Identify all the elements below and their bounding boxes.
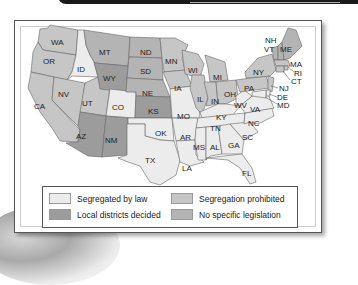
state-label-or: OR (43, 57, 55, 66)
legend-label: Segregation prohibited (199, 194, 285, 204)
state-label-nh: NH (265, 36, 277, 45)
state-label-ne: NE (142, 89, 153, 98)
state-ma (274, 60, 290, 66)
state-ct (276, 66, 284, 72)
state-label-mo: MO (177, 112, 190, 121)
state-label-fl: FL (242, 169, 252, 178)
state-ri (284, 66, 288, 70)
legend-label: Segregated by law (77, 194, 147, 204)
state-label-ks: KS (148, 107, 159, 116)
state-label-il: IL (197, 95, 204, 104)
state-label-id: ID (77, 65, 85, 74)
state-label-me: ME (280, 45, 292, 54)
legend-swatch (171, 193, 193, 204)
state-label-md: MD (277, 101, 290, 110)
state-label-mi: MI (213, 73, 222, 82)
state-label-ca: CA (34, 102, 46, 111)
state-label-la: LA (182, 164, 192, 173)
state-label-mn: MN (165, 57, 178, 66)
map-legend: Segregated by law Local districts decide… (42, 186, 298, 228)
state-label-vt: VT (264, 45, 274, 54)
state-label-sc: SC (242, 133, 253, 142)
legend-item-prohibited: Segregation prohibited (171, 193, 285, 204)
state-label-tn: TN (210, 124, 221, 133)
legend-label: No specific legislation (199, 210, 281, 220)
legend-swatch (171, 209, 193, 220)
state-label-ct: CT (291, 77, 302, 86)
state-label-ia: IA (174, 84, 182, 93)
state-label-ky: KY (216, 113, 227, 122)
state-label-ms: MS (193, 143, 205, 152)
state-label-ut: UT (82, 99, 93, 108)
state-label-nc: NC (248, 119, 260, 128)
state-label-nd: ND (140, 48, 152, 57)
state-label-va: VA (250, 105, 261, 114)
state-label-ma: MA (290, 60, 303, 69)
state-label-nv: NV (58, 90, 70, 99)
state-label-wv: WV (234, 101, 248, 110)
state-label-nj: NJ (279, 84, 289, 93)
legend-swatch (49, 209, 71, 220)
legend-label: Local districts decided (77, 210, 161, 220)
state-label-ga: GA (228, 141, 240, 150)
state-label-wy: WY (103, 74, 117, 83)
state-label-al: AL (210, 143, 220, 152)
state-label-wi: WI (188, 66, 198, 75)
state-label-ok: OK (155, 129, 167, 138)
state-label-nm: NM (105, 136, 118, 145)
state-label-sd: SD (140, 67, 151, 76)
legend-swatch (49, 193, 71, 204)
state-label-mt: MT (99, 48, 111, 57)
state-nj (268, 76, 274, 92)
legend-item-segregated: Segregated by law (49, 193, 147, 204)
state-de (266, 90, 270, 96)
state-label-oh: OH (224, 90, 236, 99)
state-label-wa: WA (51, 38, 64, 47)
legend-item-local: Local districts decided (49, 209, 161, 220)
state-label-co: CO (112, 103, 124, 112)
state-label-ar: AR (180, 133, 191, 142)
legend-item-none: No specific legislation (171, 209, 281, 220)
state-label-pa: PA (244, 84, 255, 93)
state-label-tx: TX (145, 156, 156, 165)
state-label-in: IN (211, 97, 219, 106)
state-label-az: AZ (76, 132, 86, 141)
state-me (282, 28, 302, 60)
state-label-ny: NY (253, 68, 265, 77)
